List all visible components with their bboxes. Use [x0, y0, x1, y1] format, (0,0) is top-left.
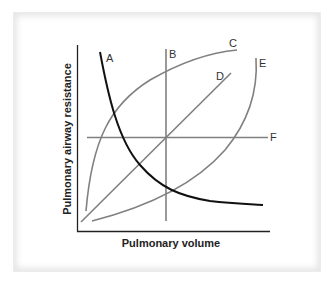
y-axis-label: Pulmonary airway resistance: [61, 63, 73, 215]
curve-e: [92, 58, 256, 221]
label-b: B: [169, 48, 176, 60]
label-a: A: [106, 52, 114, 64]
label-f: F: [270, 131, 277, 143]
x-axis-label: Pulmonary volume: [122, 237, 220, 249]
label-c: C: [229, 37, 237, 49]
label-d: D: [216, 70, 224, 82]
curve-a: [100, 52, 263, 205]
label-e: E: [259, 57, 266, 69]
curve-c: [86, 50, 237, 211]
pulmonary-resistance-diagram: A B C D E F Pulmonary volume Pulmonary a…: [0, 0, 333, 285]
